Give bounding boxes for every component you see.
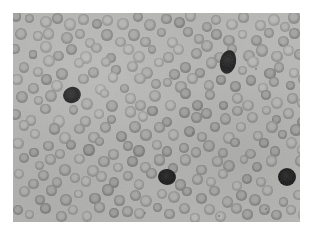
erythrocyte [82,211,92,221]
erythrocyte [238,30,247,39]
erythrocyte [202,22,212,32]
erythrocyte [46,185,57,196]
erythrocyte [297,145,300,155]
erythrocyte [133,145,145,157]
erythrocyte [14,169,24,179]
erythrocyte [64,18,77,31]
erythrocyte [127,156,138,167]
erythrocyte [81,98,93,110]
erythrocyte [196,193,207,204]
erythrocyte [192,174,202,184]
erythrocyte [106,100,118,112]
erythrocyte [252,162,262,172]
erythrocyte [201,108,212,119]
debris-speck [265,208,267,210]
erythrocyte [122,206,133,217]
erythrocyte [61,32,74,45]
erythrocyte [289,28,300,39]
erythrocyte [88,67,100,79]
erythrocyte [179,107,190,118]
erythrocyte [148,45,157,54]
erythrocyte [295,155,300,167]
erythrocyte [187,73,198,84]
erythrocyte [40,16,52,28]
erythrocyte [297,98,300,108]
erythrocyte [165,100,176,111]
dark-stained-cell [278,168,296,186]
erythrocyte [56,68,68,80]
erythrocyte [45,154,56,165]
erythrocyte [100,89,110,99]
erythrocyte [218,169,228,179]
erythrocyte [262,185,273,196]
erythrocyte [271,51,282,62]
erythrocyte [163,78,172,87]
erythrocyte [33,31,42,40]
erythrocyte [271,210,281,220]
debris-speck [280,44,282,46]
erythrocyte [154,122,165,133]
erythrocyte [209,186,219,196]
erythrocyte [56,211,67,222]
erythrocyte [226,19,237,30]
erythrocyte [102,15,113,26]
erythrocyte [13,205,23,215]
erythrocyte [75,29,85,39]
erythrocyte [140,129,151,140]
erythrocyte [108,72,119,83]
erythrocyte [43,28,55,40]
erythrocyte [102,184,114,196]
erythrocyte [25,210,34,219]
erythrocyte [101,29,113,41]
erythrocyte [179,203,191,215]
erythrocyte [130,190,141,201]
erythrocyte [261,90,271,100]
erythrocyte [179,143,189,153]
erythrocyte [288,13,300,24]
erythrocyte [262,106,272,116]
erythrocyte [247,112,258,123]
erythrocyte [144,19,156,31]
erythrocyte [203,140,215,152]
erythrocyte [66,44,77,55]
erythrocyte [25,14,34,23]
erythrocyte [216,75,226,85]
erythrocyte [174,17,185,28]
erythrocyte [94,202,105,213]
erythrocyte [45,90,57,102]
erythrocyte [151,79,161,89]
erythrocyte [259,138,269,148]
erythrocyte [125,106,136,117]
erythrocyte [123,171,134,182]
erythrocyte [215,211,226,222]
erythrocyte [205,90,215,100]
erythrocyte [13,13,21,22]
erythrocyte [180,62,191,73]
erythrocyte [266,121,278,133]
erythrocyte [283,108,294,119]
debris-speck [255,68,257,70]
erythrocyte [149,90,161,102]
erythrocyte [41,74,52,85]
erythrocyte [161,14,171,24]
erythrocyte [83,144,95,156]
erythrocyte [43,141,54,152]
erythrocyte [40,41,51,52]
erythrocyte [212,156,223,167]
erythrocyte [204,204,216,216]
erythrocyte [13,44,20,54]
erythrocyte [232,106,242,116]
erythrocyte [230,81,241,92]
erythrocyte [140,195,152,207]
erythrocyte [169,69,180,80]
erythrocyte [286,137,298,149]
erythrocyte [180,154,192,166]
erythrocyte [134,73,146,85]
erythrocyte [35,161,44,170]
erythrocyte [163,52,173,62]
debris-speck [144,212,146,214]
erythrocyte [238,66,247,75]
erythrocyte [266,155,278,167]
erythrocyte [13,138,24,149]
erythrocyte [133,13,143,22]
